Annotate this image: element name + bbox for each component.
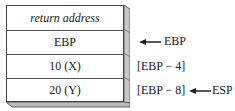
- x-offset-label: [EBP − 4]: [137, 59, 185, 74]
- stack-cell-x: 10 (X): [7, 54, 123, 78]
- cell-label: EBP: [54, 35, 76, 50]
- cell-label: 20 (Y): [49, 83, 81, 98]
- esp-pointer-label: ESP: [212, 83, 233, 98]
- stack-frame: return address EBP 10 (X) 20 (Y): [6, 5, 124, 102]
- cell-label: 10 (X): [49, 59, 81, 74]
- stack-cell-y: 20 (Y): [7, 78, 123, 102]
- y-offset-label: [EBP − 8]: [137, 83, 185, 98]
- stack-cell-ebp: EBP: [7, 30, 123, 54]
- stack-cell-return-address: return address: [7, 6, 123, 30]
- ebp-pointer-label: EBP: [164, 34, 186, 49]
- arrow-left-icon: [189, 87, 211, 95]
- stack-bottom-face: [6, 102, 130, 108]
- arrow-left-icon: [139, 38, 161, 46]
- stack-side-face: [124, 5, 130, 103]
- cell-label: return address: [30, 11, 99, 26]
